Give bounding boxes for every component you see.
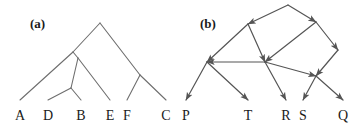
tip-label-b-Q: Q xyxy=(338,108,348,124)
edge-center-hub-to-R xyxy=(265,62,286,100)
edge-left-hub-to-T xyxy=(207,62,248,100)
edge-top-to-upper-left xyxy=(248,5,288,24)
tip-label-a-C: C xyxy=(161,108,170,124)
tree-edges-panel-a xyxy=(20,23,166,100)
tip-label-b-P: P xyxy=(182,108,190,124)
panel-label-a: (a) xyxy=(30,16,45,32)
edge-lower-right-hub-to-S xyxy=(303,76,316,100)
edge-left-hub-to-P xyxy=(186,62,207,100)
edge-root-to-n4 xyxy=(100,23,140,75)
tip-label-b-S: S xyxy=(299,108,307,124)
edge-n1-to-n2 xyxy=(73,52,78,58)
edge-lower-right-hub-to-Q xyxy=(316,76,343,100)
edge-n2-to-n3 xyxy=(71,58,78,88)
edge-center-hub-to-lower-right-hub xyxy=(265,62,316,76)
tip-label-a-D: D xyxy=(43,108,53,124)
edge-right-to-lower-right-hub xyxy=(316,50,338,76)
tip-label-b-T: T xyxy=(244,108,253,124)
figure-container: (a) (b) A D B E F C P T R S Q xyxy=(0,0,364,130)
tip-label-a-F: F xyxy=(123,108,131,124)
edge-n3-to-D xyxy=(48,88,71,100)
edge-n3-to-B xyxy=(71,88,81,100)
edge-n2-to-E xyxy=(78,58,110,100)
tip-label-a-A: A xyxy=(15,108,25,124)
tip-label-a-B: B xyxy=(76,108,85,124)
tip-label-b-R: R xyxy=(281,108,290,124)
edge-n4-to-C xyxy=(140,75,166,100)
tip-label-a-E: E xyxy=(106,108,115,124)
edge-upper-right-to-right xyxy=(316,22,338,50)
panel-label-b: (b) xyxy=(200,16,216,32)
edge-root-to-n1 xyxy=(73,23,100,52)
edge-top-to-upper-right xyxy=(288,5,316,22)
edge-upper-right-to-center-hub xyxy=(265,22,316,62)
edge-n1-to-A xyxy=(20,52,73,100)
edge-n4-to-F xyxy=(127,75,140,100)
edge-upper-left-to-center-hub xyxy=(248,24,265,62)
